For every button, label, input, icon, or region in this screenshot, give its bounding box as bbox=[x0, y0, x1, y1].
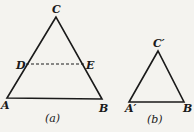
caption-b: (b) bbox=[147, 113, 163, 126]
caption-a: (a) bbox=[45, 112, 60, 125]
label-c-prime: C′ bbox=[153, 37, 165, 50]
label-a-prime: A′ bbox=[124, 102, 137, 115]
triangle-a: C D E A B (a) bbox=[0, 3, 108, 125]
triangle-a-prime-b-c-prime bbox=[129, 51, 184, 102]
triangle-b: C′ A′ B (b) bbox=[124, 37, 192, 126]
label-c: C bbox=[52, 3, 61, 16]
label-e: E bbox=[85, 59, 95, 72]
label-d: D bbox=[15, 59, 26, 72]
label-a: A bbox=[0, 99, 10, 112]
triangle-abc bbox=[7, 17, 102, 99]
label-b: B bbox=[98, 102, 108, 115]
similar-triangles-diagram: C D E A B (a) C′ A′ B (b) bbox=[0, 0, 194, 132]
diagram-canvas: C D E A B (a) C′ A′ B (b) bbox=[0, 0, 194, 132]
label-b-prime: B bbox=[182, 102, 192, 115]
